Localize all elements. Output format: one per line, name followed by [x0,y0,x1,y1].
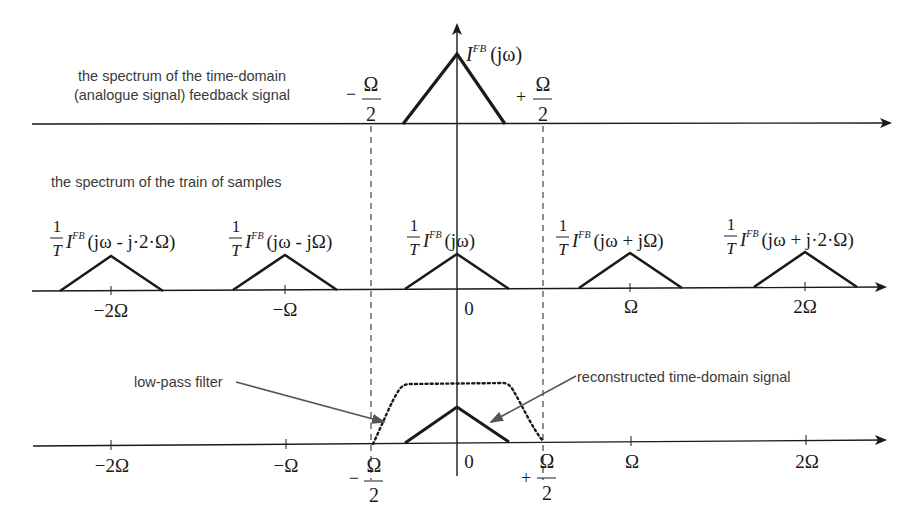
replica-triangle-2omega [754,252,857,287]
replica-triangle-minus-omega [233,255,337,290]
tick-label-minus-2omega-bottom: −2Ω [95,455,129,476]
svg-text:Ω: Ω [536,73,551,95]
tick-label-minus-2omega: −2Ω [94,300,128,321]
spectrum-diagram: the spectrum of the time-domain (analogu… [0,0,919,529]
reconstruction-panel: −2Ω −Ω 0 Ω 2Ω − Ω 2 + Ω 2 low-pass filte… [33,369,885,506]
replica-formula-zero: 1 T IFB(jω) [407,216,475,259]
svg-text:−: − [346,84,356,104]
tick-label-2omega: 2Ω [793,296,817,317]
tick-label-2omega-bottom: 2Ω [795,451,819,472]
replica-triangle-minus-2omega [60,256,163,291]
svg-text:Ω: Ω [540,450,555,472]
svg-text:2: 2 [538,103,548,125]
band-edge-plus-half-omega-top: + Ω 2 [516,73,552,125]
svg-text:1: 1 [53,217,62,236]
svg-text:IFB(jω - j·2·Ω): IFB(jω - j·2·Ω) [65,230,175,253]
replica-triangle-omega [579,253,682,288]
svg-text:Ω: Ω [367,454,382,476]
low-pass-filter-curve [373,383,543,444]
svg-text:2: 2 [369,484,379,506]
analogue-label-line2: (analogue signal) feedback signal [74,87,290,103]
sample-train-spectrum-panel: the spectrum of the train of samples −2Ω… [32,174,885,321]
svg-text:+: + [516,87,526,107]
svg-text:IFB(jω + j·2·Ω): IFB(jω + j·2·Ω) [739,228,854,251]
low-pass-filter-label: low-pass filter [134,374,223,390]
band-edge-plus-half-omega-bottom: + Ω 2 [521,450,556,504]
svg-text:T: T [558,240,569,259]
svg-text:Ω: Ω [364,73,379,95]
svg-text:IFB(jω + jΩ): IFB(jω + jΩ) [571,229,664,252]
svg-text:1: 1 [559,216,568,235]
low-pass-filter-arrow [236,382,384,422]
svg-text:T: T [726,239,737,258]
svg-text:T: T [52,241,63,260]
tick-label-zero-bottom: 0 [464,451,474,472]
tick-label-omega: Ω [624,296,638,317]
svg-text:T: T [409,240,420,259]
svg-text:1: 1 [410,216,419,235]
svg-text:1: 1 [232,217,241,236]
tick-label-minus-omega: −Ω [273,299,298,320]
analogue-curve-label: IFB(jω) [465,42,522,66]
svg-text:T: T [231,241,242,260]
replica-formula-omega: 1 T IFB(jω + jΩ) [556,216,664,259]
svg-text:1: 1 [727,215,736,234]
tick-label-omega-bottom: Ω [625,451,639,472]
frequency-axis-3 [33,440,885,446]
svg-text:IFB(jω): IFB(jω) [422,229,475,252]
replica-formula-2omega: 1 T IFB(jω + j·2·Ω) [724,215,854,258]
svg-text:2: 2 [542,482,552,504]
band-edge-minus-half-omega-top: − Ω 2 [346,73,381,125]
svg-text:−: − [349,468,359,488]
band-edge-minus-half-omega-bottom: − Ω 2 [349,454,383,506]
svg-text:IFB(jω - jΩ): IFB(jω - jΩ) [244,230,332,253]
replica-formula-minus-omega: 1 T IFB(jω - jΩ) [229,217,332,260]
frequency-axis-1 [32,123,890,124]
tick-label-minus-omega-bottom: −Ω [274,455,299,476]
analogue-spectrum-panel: the spectrum of the time-domain (analogu… [32,42,890,125]
svg-text:2: 2 [366,103,376,125]
tick-label-zero: 0 [464,298,474,319]
replica-formula-minus-2omega: 1 T IFB(jω - j·2·Ω) [50,217,175,260]
reconstructed-signal-label: reconstructed time-domain signal [577,369,791,385]
sample-train-label: the spectrum of the train of samples [51,174,282,190]
svg-text:+: + [521,468,531,488]
analogue-label-line1: the spectrum of the time-domain [78,68,286,84]
